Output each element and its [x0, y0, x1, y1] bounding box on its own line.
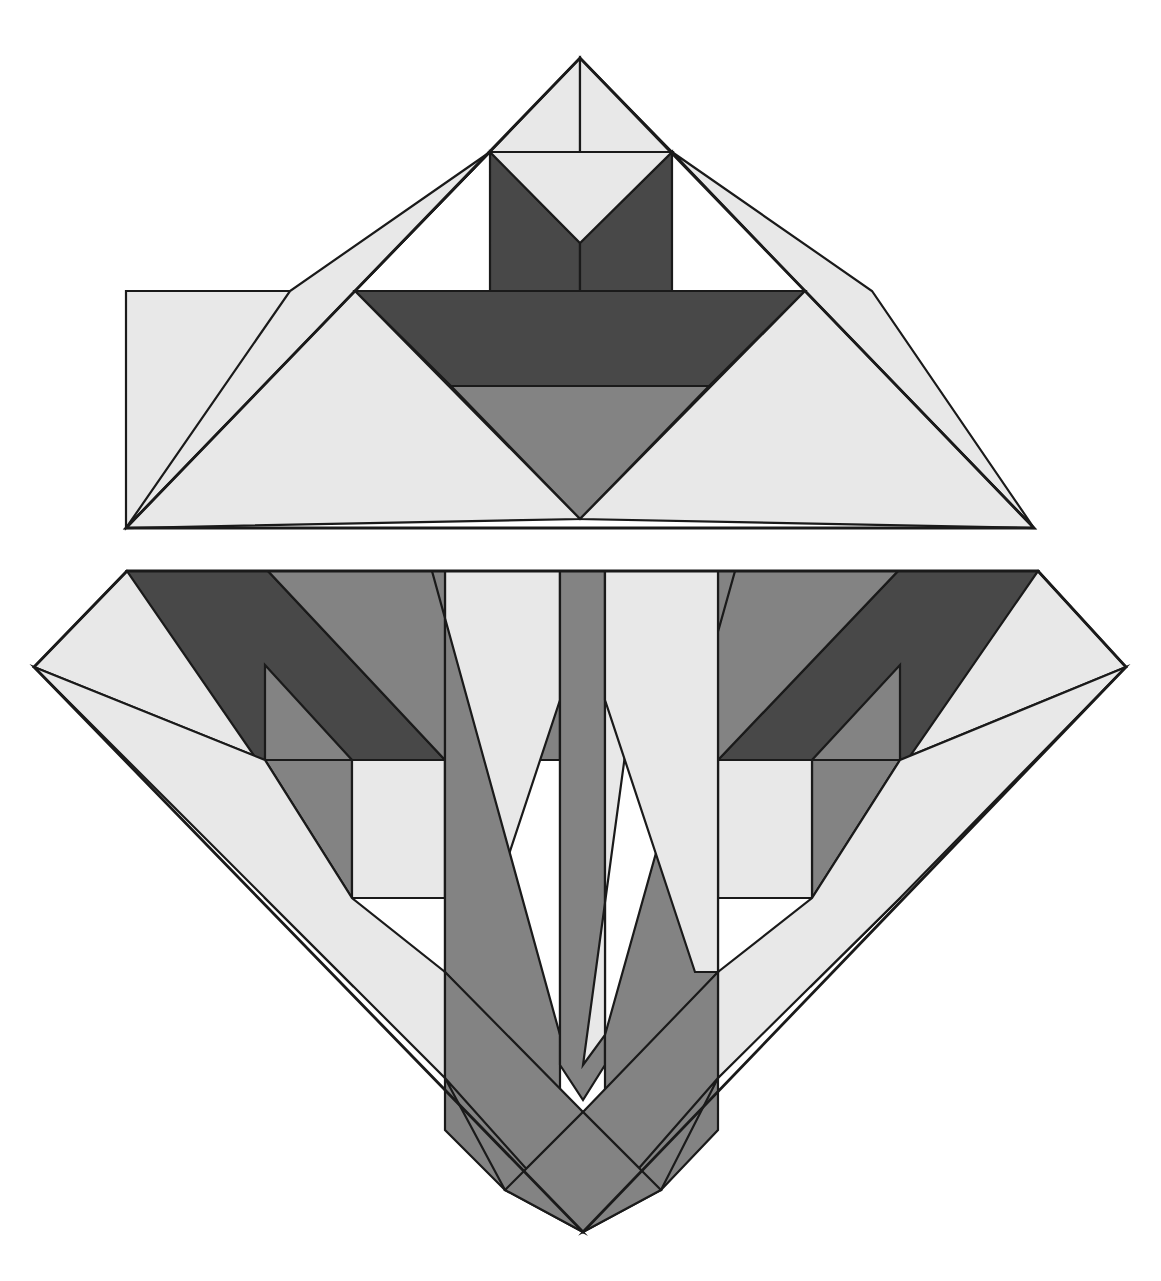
lower-right-inner-light	[718, 760, 812, 898]
artboard: Geometric Quilt Block — Tulip in Vase	[0, 0, 1161, 1281]
quilt-block-illustration: Geometric Quilt Block — Tulip in Vase	[0, 0, 1161, 1281]
lower-left-inner-light	[352, 760, 445, 898]
